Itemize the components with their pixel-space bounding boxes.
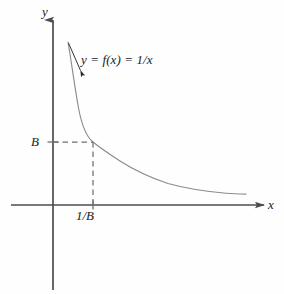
curve-equation-label: y = f(x) = 1/x xyxy=(81,53,153,66)
x-tick-label-one-over-b: 1/B xyxy=(76,209,94,222)
figure-container: y x B 1/B y = f(x) = 1/x xyxy=(0,0,284,294)
plot-canvas xyxy=(0,0,284,294)
y-tick-label-b: B xyxy=(31,135,39,148)
y-axis-label: y xyxy=(42,5,48,18)
x-axis-label: x xyxy=(268,198,274,211)
